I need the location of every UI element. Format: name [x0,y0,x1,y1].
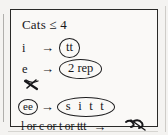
rule-row-e: e → 2 rep [22,60,102,78]
rule-i-rhs-circled: tt [59,39,80,57]
note-body: Cats ≤ 4 i → tt e → 2 rep ee [11,10,157,126]
rule-ee-lhs-circled: ee [18,100,38,114]
rule-row-ee: ee → s i t t [18,98,115,116]
scanned-note-image: Cats ≤ 4 i → tt e → 2 rep ee [0,0,168,135]
rule-ee-rhs-circled: s i t t [57,98,115,116]
note-frame-border: Cats ≤ 4 i → tt e → 2 rep ee [10,9,158,127]
scan-edge-artifact-right [165,6,166,132]
rule-row-i: i → tt [22,39,80,57]
scan-edge-artifact-left [3,14,4,122]
rule-e-lhs: e [22,63,34,76]
arrow-right-icon: → [41,62,54,75]
note-title-text: Cats ≤ 4 [22,18,67,31]
crossed-out-scribble-icon [24,78,40,91]
arrow-right-icon: → [41,41,54,54]
arrow-right-icon: → [93,120,106,133]
rule-i-lhs: i [22,42,34,55]
arrow-right-icon: → [41,100,54,113]
crossed-out-scribble-icon [125,118,149,132]
rule-e-rhs-circled: 2 rep [59,60,102,78]
rule-bottom-text: l or c or t or ttt [21,121,86,133]
note-title: Cats ≤ 4 [22,18,67,31]
rule-row-bottom: l or c or t or ttt → [21,120,111,133]
